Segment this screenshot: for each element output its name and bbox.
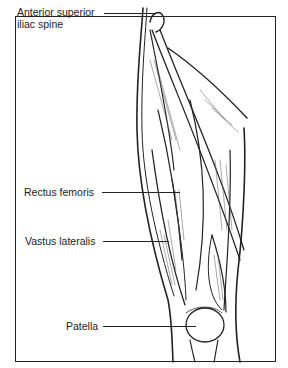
thigh-muscle-illustration [0,0,288,368]
leader-line-vastus-lateralis [103,241,169,242]
leader-line-patella [103,326,196,327]
leader-line-rectus-femoris [102,192,180,193]
label-patella: Patella [66,320,98,332]
leader-line-asis [104,13,154,14]
label-anterior-superior-iliac-spine: Anterior superior iliac spine [17,6,95,30]
label-line-1: Anterior superior [17,6,95,18]
label-line-2: iliac spine [17,18,95,30]
label-vastus-lateralis: Vastus lateralis [25,235,95,247]
label-rectus-femoris: Rectus femoris [24,186,94,198]
